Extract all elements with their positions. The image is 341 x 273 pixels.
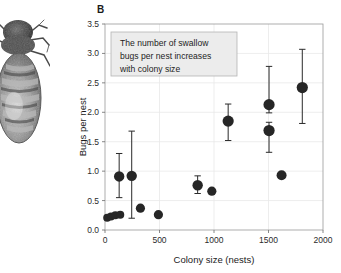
data-point: [207, 187, 216, 196]
annotation-box: The number of swallowbugs per nest incre…: [111, 32, 237, 76]
annotation-line: bugs per nest increases: [120, 51, 211, 61]
data-point: [154, 210, 163, 219]
data-point: [223, 104, 234, 140]
annotation-line: The number of swallow: [120, 38, 209, 48]
scatter-plot: 0.00.51.01.52.02.53.03.5 050010001500200…: [75, 0, 341, 273]
data-point: [263, 122, 274, 152]
x-tick-labels: 0500100015002000: [103, 235, 333, 245]
y-tick-labels: 0.00.51.01.52.02.53.03.5: [87, 19, 99, 235]
photo-panel: [0, 0, 75, 273]
x-axis-title: Colony size (nests): [174, 254, 255, 265]
y-tick-label: 1.5: [87, 137, 99, 147]
data-point: [136, 204, 145, 213]
y-tick-label: 2.0: [87, 107, 99, 117]
x-tick-label: 1000: [205, 235, 224, 245]
x-tick-label: 2000: [314, 235, 333, 245]
swallow-bug-photo: [0, 14, 50, 159]
figure-panel-b: B 0.00.51.01.52.02.53.03.5 0500100015002…: [0, 0, 341, 273]
y-axis-title: Bugs per nest: [77, 97, 88, 156]
plot-panel: B 0.00.51.01.52.02.53.03.5 0500100015002…: [75, 0, 341, 273]
data-point: [277, 170, 287, 180]
y-tick-label: 0.5: [87, 196, 99, 206]
data-point: [192, 176, 202, 194]
y-tick-label: 1.0: [87, 166, 99, 176]
data-point: [263, 66, 274, 112]
y-tick-label: 3.5: [87, 19, 99, 29]
y-tick-label: 2.5: [87, 78, 99, 88]
x-tick-label: 500: [152, 235, 166, 245]
x-tick-label: 0: [103, 235, 108, 245]
y-tick-label: 3.0: [87, 48, 99, 58]
data-point: [116, 211, 124, 219]
data-point: [114, 153, 124, 197]
data-point: [127, 131, 137, 218]
annotation-line: with colony size: [119, 64, 180, 74]
y-tick-label: 0.0: [87, 225, 99, 235]
x-tick-label: 1500: [259, 235, 278, 245]
